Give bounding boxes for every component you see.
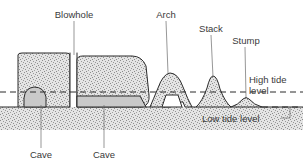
coastal-erosion-diagram: Blowhole Arch Stack Stump Cave Cave High…: [0, 0, 303, 165]
blowhole-gap: [70, 53, 77, 107]
stack-leader: [211, 35, 213, 77]
label-high-tide-line2: level: [249, 85, 269, 96]
label-low-tide: Low tide level: [202, 113, 260, 124]
cave-left-opening: [24, 87, 46, 107]
cave-right-opening: [77, 96, 146, 107]
label-blowhole: Blowhole: [55, 9, 94, 20]
label-stump: Stump: [232, 35, 259, 46]
diagram-canvas: Blowhole Arch Stack Stump Cave Cave High…: [0, 0, 303, 165]
arch-headland: [150, 73, 192, 107]
label-stack: Stack: [199, 23, 223, 34]
label-arch: Arch: [156, 9, 176, 20]
stump-leader: [245, 47, 246, 97]
label-cave-right: Cave: [93, 149, 115, 160]
stump-mound: [231, 98, 262, 108]
shore-shelf: [146, 107, 160, 112]
arch-leader: [166, 21, 168, 73]
label-high-tide-line1: High tide: [249, 74, 287, 85]
label-cave-left: Cave: [30, 149, 52, 160]
